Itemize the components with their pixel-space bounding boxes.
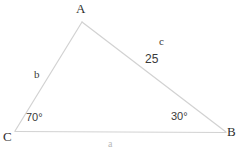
angle-label-at-c: 70° [26,112,43,123]
side-label-b: b [34,69,40,80]
vertex-label-b: B [227,125,236,138]
vertex-label-a: A [76,2,85,15]
triangle-side-c-line [82,22,226,132]
side-label-a: a [108,139,112,149]
vertex-label-c: C [3,130,12,143]
side-label-c: c [159,36,164,47]
side-measure-label-c: 25 [145,53,158,65]
triangle-side-a-line [15,132,226,133]
angle-label-at-b: 30° [171,111,188,122]
geometry-diagram-canvas: A B C b c a 70° 30° 25 [0,0,240,154]
